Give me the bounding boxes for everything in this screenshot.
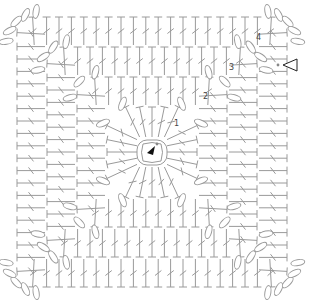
double-crochet-stitch [17, 216, 45, 224]
double-crochet-stitch [17, 117, 45, 125]
chain-stitch [253, 51, 268, 64]
double-crochet-stitch [154, 199, 162, 227]
double-crochet-stitch [148, 229, 156, 257]
chain-stitch [226, 93, 241, 102]
double-crochet-stitch [216, 17, 224, 45]
double-crochet-stitch [77, 129, 105, 137]
double-crochet-stitch [111, 47, 119, 75]
double-crochet-stitch [167, 17, 175, 45]
double-crochet-stitch [148, 107, 156, 137]
double-crochet-stitch [77, 167, 105, 175]
double-crochet-stitch [259, 179, 287, 187]
double-crochet-stitch [259, 191, 287, 199]
double-crochet-stitch [17, 142, 45, 150]
chain-stitch [72, 215, 86, 229]
double-crochet-stitch [191, 77, 199, 105]
double-crochet-stitch [43, 17, 51, 45]
double-crochet-stitch [111, 229, 119, 257]
double-crochet-stitch [17, 179, 45, 187]
double-crochet-stitch [47, 236, 75, 244]
double-crochet-stitch [47, 123, 75, 131]
double-crochet-stitch [229, 185, 257, 193]
round-label-4: 4 [256, 33, 261, 42]
double-crochet-stitch [167, 122, 199, 140]
double-crochet-stitch [142, 199, 150, 227]
chain-stitch [264, 4, 272, 19]
chain-stitch [0, 259, 14, 267]
double-crochet-stitch [47, 160, 75, 168]
double-crochet-stitch [167, 148, 197, 156]
double-crochet-stitch [105, 122, 137, 140]
double-crochet-stitch [222, 229, 230, 257]
double-crochet-stitch [259, 154, 287, 162]
chain-stitch [62, 34, 71, 49]
double-crochet-stitch [167, 259, 175, 287]
double-crochet-stitch [91, 199, 99, 227]
double-crochet-stitch [229, 160, 257, 168]
double-crochet-stitch [60, 47, 68, 75]
double-crochet-stitch [74, 229, 82, 257]
double-crochet-stitch [80, 17, 88, 45]
double-crochet-stitch [199, 129, 227, 137]
chain-stitch [2, 25, 17, 37]
double-crochet-stitch [105, 199, 113, 227]
double-crochet-stitch [167, 77, 175, 105]
double-crochet-stitch [229, 123, 257, 131]
chain-stitch [32, 285, 40, 300]
double-crochet-stitch [259, 105, 287, 113]
double-crochet-stitch [80, 259, 88, 287]
double-crochet-stitch [173, 47, 181, 75]
double-crochet-stitch [47, 74, 75, 82]
double-crochet-stitch [43, 259, 51, 287]
double-crochet-stitch [136, 229, 144, 257]
chain-stitch [290, 259, 305, 267]
double-crochet-stitch [160, 47, 168, 75]
crochet-chart: 1 2 3 4 [0, 0, 311, 301]
round-label-2: 2 [203, 92, 208, 101]
double-crochet-stitch [191, 259, 199, 287]
double-crochet-stitch [47, 222, 75, 230]
double-crochet-stitch [91, 77, 99, 105]
double-crochet-stitch [17, 129, 45, 137]
double-crochet-stitch [92, 259, 100, 287]
double-crochet-stitch [199, 154, 227, 162]
double-crochet-stitch [167, 164, 199, 182]
double-crochet-stitch [129, 17, 137, 45]
chain-stitch [30, 230, 45, 239]
chain-stitch [193, 175, 208, 186]
double-crochet-stitch [123, 47, 131, 75]
double-crochet-stitch [259, 129, 287, 137]
double-crochet-stitch [204, 17, 212, 45]
double-crochet-stitch [148, 167, 156, 197]
double-crochet-stitch [117, 17, 125, 45]
chain-stitch [226, 202, 241, 211]
double-crochet-stitch [236, 229, 244, 257]
double-crochet-stitch [216, 259, 224, 287]
double-crochet-stitch [259, 142, 287, 150]
double-crochet-stitch [148, 47, 156, 75]
double-crochet-stitch [98, 229, 106, 257]
double-crochet-stitch [47, 60, 75, 68]
double-crochet-stitch [198, 47, 206, 75]
double-crochet-stitch [205, 199, 213, 227]
double-crochet-stitch [259, 216, 287, 224]
double-crochet-stitch [47, 148, 75, 156]
double-crochet-stitch [47, 86, 75, 94]
double-crochet-stitch [164, 167, 182, 199]
chain-stitch [233, 255, 242, 270]
double-crochet-stitch [199, 191, 227, 199]
double-crochet-stitch [229, 236, 257, 244]
double-crochet-stitch [77, 154, 105, 162]
double-crochet-stitch [179, 17, 187, 45]
double-crochet-stitch [154, 17, 162, 45]
double-crochet-stitch [129, 259, 137, 287]
double-crochet-stitch [199, 167, 227, 175]
double-crochet-stitch [17, 43, 45, 51]
double-crochet-stitch [191, 199, 199, 227]
double-crochet-stitch [198, 229, 206, 257]
round-label-1: 1 [174, 119, 179, 128]
double-crochet-stitch [199, 142, 227, 150]
chain-stitch [32, 4, 40, 19]
double-crochet-stitch [123, 229, 131, 257]
chain-stitch [259, 66, 274, 75]
